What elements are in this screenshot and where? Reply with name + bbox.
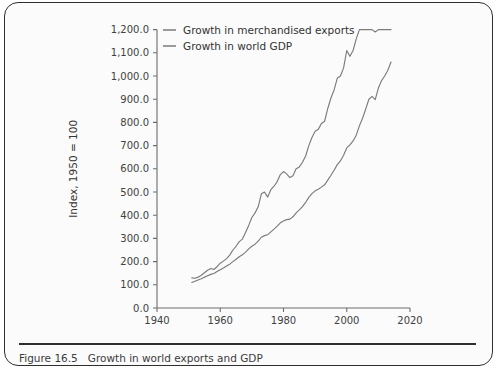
x-tick-label: 2020: [397, 315, 422, 326]
y-tick-label: 600.0: [120, 163, 149, 174]
x-tick-label: 1960: [208, 315, 233, 326]
line-chart: 0.0100.0200.0300.0400.0500.0600.0700.080…: [5, 3, 493, 333]
x-tick-label: 1980: [271, 315, 296, 326]
legend-label: Growth in merchandised exports: [183, 24, 355, 36]
y-tick-label: 400.0: [120, 210, 149, 221]
series-line: [192, 30, 391, 279]
series-line: [192, 62, 391, 282]
x-tick-label: 1940: [144, 315, 169, 326]
x-axis-tick-marks: [157, 308, 410, 312]
caption-divider: [19, 343, 476, 345]
y-tick-label: 900.0: [120, 94, 149, 105]
y-tick-label: 700.0: [120, 140, 149, 151]
y-axis-title: Index, 1950 = 100: [67, 120, 79, 218]
y-axis-tick-labels: 0.0100.0200.0300.0400.0500.0600.0700.080…: [111, 24, 149, 313]
y-tick-label: 500.0: [120, 187, 149, 198]
y-axis-tick-marks: [153, 30, 157, 308]
y-tick-label: 200.0: [120, 256, 149, 267]
y-tick-label: 1,000.0: [111, 71, 149, 82]
y-tick-label: 300.0: [120, 233, 149, 244]
legend-label: Growth in world GDP: [183, 40, 292, 52]
y-tick-label: 1,100.0: [111, 47, 149, 58]
x-axis-title: Year: [271, 332, 295, 333]
figure-caption: Figure 16.5Growth in world exports and G…: [19, 352, 479, 364]
y-tick-label: 1,200.0: [111, 24, 149, 35]
y-tick-label: 800.0: [120, 117, 149, 128]
figure-panel: 0.0100.0200.0300.0400.0500.0600.0700.080…: [4, 2, 493, 366]
figure-number: Figure 16.5: [19, 352, 78, 364]
data-series-group: [192, 30, 391, 283]
y-tick-label: 0.0: [133, 303, 149, 314]
figure-caption-text: Growth in world exports and GDP: [88, 352, 263, 364]
chart-legend: Growth in merchandised exportsGrowth in …: [163, 24, 355, 52]
chart-plot-area: 0.0100.0200.0300.0400.0500.0600.0700.080…: [5, 3, 493, 333]
x-tick-label: 2000: [334, 315, 359, 326]
x-axis-tick-labels: 19401960198020002020: [144, 315, 422, 326]
y-tick-label: 100.0: [120, 279, 149, 290]
